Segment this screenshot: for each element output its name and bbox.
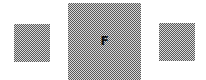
tile-center-selected[interactable]: F — [68, 3, 141, 80]
tile-left[interactable] — [14, 24, 50, 62]
tile-right[interactable] — [159, 23, 195, 61]
tile-letter: F — [68, 34, 141, 48]
